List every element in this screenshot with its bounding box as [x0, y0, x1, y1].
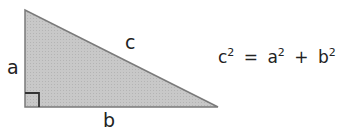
formula-b-exponent: 2 — [329, 46, 336, 59]
formula-a: a — [267, 47, 277, 67]
side-a-label: a — [7, 58, 19, 77]
formula-plus: + — [294, 47, 308, 67]
triangle-shape — [25, 10, 218, 107]
formula-c-exponent: 2 — [227, 46, 234, 59]
pythagorean-formula: c2 = a2 + b2 — [218, 46, 336, 67]
side-c-label: c — [125, 33, 135, 52]
formula-b: b — [318, 47, 329, 67]
pythagorean-diagram: a b c c2 = a2 + b2 — [0, 0, 340, 133]
formula-equals: = — [244, 47, 258, 67]
formula-a-exponent: 2 — [278, 46, 285, 59]
side-b-label: b — [103, 111, 115, 130]
formula-c: c — [218, 47, 227, 67]
